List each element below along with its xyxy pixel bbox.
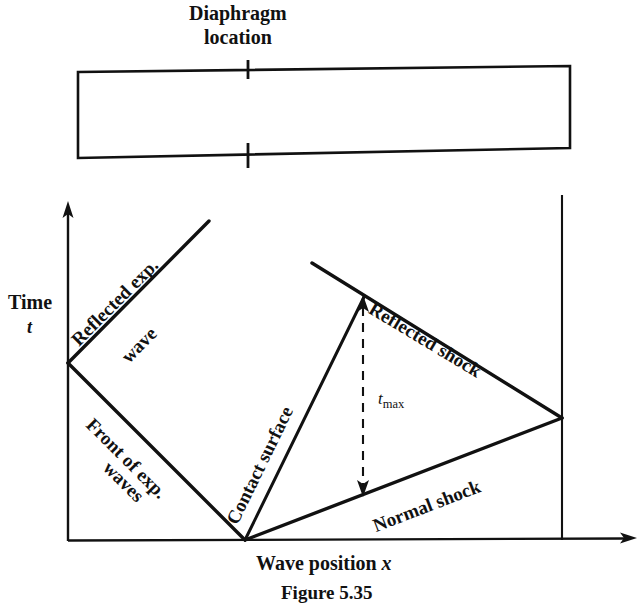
x-axis-line — [68, 539, 626, 541]
tube-rectangle — [78, 66, 570, 158]
shock-tube-outline — [78, 66, 570, 158]
tmax-dimension-arrow — [357, 295, 369, 497]
x-axis-label: Wave position x — [256, 553, 392, 573]
diaphragm-label-line2: location — [204, 27, 272, 47]
x-axis-label-text: Wave position — [256, 552, 382, 574]
y-axis-label-time: Time — [8, 292, 52, 312]
diaphragm-label-line1: Diaphragm — [189, 3, 287, 23]
front-of-exp-waves-line — [68, 363, 245, 540]
y-axis-symbol-t: t — [27, 318, 32, 336]
x-axis-label-symbol: x — [382, 552, 392, 574]
tmax-subscript: max — [383, 397, 405, 411]
contact-surface-line — [245, 297, 364, 540]
figure-caption: Figure 5.35 — [281, 583, 372, 602]
tmax-label: tmax — [378, 390, 404, 411]
